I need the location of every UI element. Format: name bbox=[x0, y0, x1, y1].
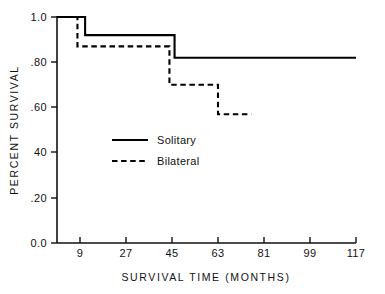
x-axis-title: SURVIVAL TIME (MONTHS) bbox=[122, 271, 291, 283]
y-tick-label-0.20: .20 bbox=[31, 192, 48, 204]
x-tick-label-9: 9 bbox=[77, 247, 84, 259]
legend-label-bilateral: Bilateral bbox=[157, 155, 199, 167]
survival-chart-figure: 1.0 .80 .60 40 .20 0.0 9 27 45 63 81 99 … bbox=[0, 0, 385, 294]
x-tick-label-99: 99 bbox=[303, 247, 316, 259]
chart-legend: Solitary Bilateral bbox=[112, 134, 199, 167]
x-tick-label-117: 117 bbox=[347, 247, 366, 259]
y-tick-label-0.40: 40 bbox=[34, 146, 47, 158]
y-axis-title: PERCENT SURVIVAL bbox=[8, 65, 20, 194]
y-tick-label-0.80: .80 bbox=[31, 56, 48, 68]
x-tick-label-27: 27 bbox=[119, 247, 132, 259]
y-tick-label-1.0: 1.0 bbox=[31, 11, 48, 23]
y-tick-label-0.60: .60 bbox=[31, 101, 48, 113]
series-line-solitary bbox=[57, 17, 356, 58]
chart-svg: 1.0 .80 .60 40 .20 0.0 9 27 45 63 81 99 … bbox=[0, 0, 385, 294]
x-tick-label-81: 81 bbox=[257, 247, 270, 259]
x-tick-label-45: 45 bbox=[165, 247, 178, 259]
legend-label-solitary: Solitary bbox=[157, 134, 196, 146]
y-tick-label-0.0: 0.0 bbox=[31, 237, 48, 249]
x-tick-label-63: 63 bbox=[211, 247, 224, 259]
